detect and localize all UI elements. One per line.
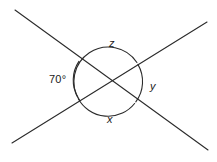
geometry-canvas (0, 0, 217, 162)
geometry-diagram: 70° z y x (0, 0, 217, 162)
angle-arc-z (74, 47, 137, 100)
line-nw-se (15, 10, 208, 150)
angle-label-z: z (109, 38, 115, 49)
angle-arc-y (136, 64, 143, 102)
angle-label-x: x (107, 114, 113, 125)
angle-label-y: y (150, 81, 156, 92)
angle-arc-group (73, 47, 142, 116)
angle-label-70-degrees: 70° (49, 74, 66, 85)
